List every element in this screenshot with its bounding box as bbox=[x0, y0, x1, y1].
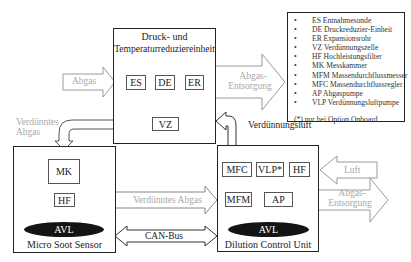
luft-label: Luft bbox=[344, 165, 360, 176]
verduenntes-abgas-left-label-2: Abgas bbox=[16, 127, 40, 138]
micro-soot-sensor-title: Micro Soot Sensor bbox=[13, 239, 116, 251]
avl-logo-mss: AVL bbox=[24, 222, 104, 237]
component-hf-dcu: HF bbox=[289, 162, 310, 177]
abgas-outlet-top-label-2: Entsorgung bbox=[222, 81, 278, 92]
legend-item: •DE Druckreduzier-Einheit bbox=[294, 25, 400, 34]
component-mk: MK bbox=[48, 159, 80, 184]
component-vlp: VLP* bbox=[256, 162, 284, 177]
legend-list: •ES Entnahmesonde •DE Druckreduzier-Einh… bbox=[294, 16, 400, 107]
avl-logo-dcu: AVL bbox=[228, 222, 309, 237]
component-es: ES bbox=[126, 75, 146, 90]
pressure-unit-title-line2: Temperaturreduziereinheit bbox=[113, 43, 216, 55]
legend-note: (*) nur bei Option Onboard bbox=[294, 115, 400, 124]
legend-item: •VZ Verdünnungszelle bbox=[294, 43, 400, 52]
legend-item: •MFM Massendurchflussmesser bbox=[294, 71, 400, 80]
legend-box: •ES Entnahmesonde •DE Druckreduzier-Einh… bbox=[287, 12, 405, 122]
component-hf-mss: HF bbox=[54, 193, 75, 207]
legend-item: •VLP Verdünnungsluftpumpe bbox=[294, 98, 400, 107]
verduenntes-abgas-mid-label: Verdünntes Abgas bbox=[133, 195, 202, 206]
component-er: ER bbox=[185, 75, 204, 90]
component-ap: AP bbox=[264, 192, 293, 207]
legend-item: •ER Expansionsrohr bbox=[294, 34, 400, 43]
legend-item: •MFC Massendurchflussregler bbox=[294, 80, 400, 89]
legend-item: •ES Entnahmesonde bbox=[294, 16, 400, 25]
legend-item: •AP Abgaspumpe bbox=[294, 89, 400, 98]
pressure-unit-title-line1: Druck- und bbox=[113, 31, 216, 43]
dilution-control-unit-title: Dilution Control Unit bbox=[217, 239, 319, 251]
component-de: DE bbox=[155, 75, 175, 90]
legend-item: •HF Hochleistungsfilter bbox=[294, 52, 400, 61]
abgas-inlet-label: Abgas bbox=[72, 76, 96, 87]
component-mfc: MFC bbox=[222, 162, 252, 177]
legend-item: •MK Messkammer bbox=[294, 61, 400, 70]
can-bus-label: CAN-Bus bbox=[145, 231, 183, 242]
abgas-outlet-bottom-label-2: Entsorgung bbox=[322, 198, 378, 209]
component-vz: VZ bbox=[152, 117, 179, 131]
component-mfm: MFM bbox=[225, 192, 252, 207]
verduennungsluft-curved-arrow bbox=[216, 112, 236, 145]
